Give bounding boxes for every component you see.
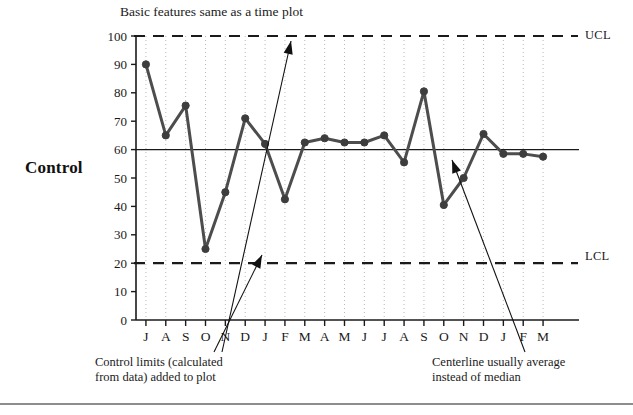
svg-text:A: A: [399, 329, 409, 344]
lcl-label: LCL: [585, 249, 610, 264]
callout-arrows: [214, 41, 525, 352]
svg-text:50: 50: [114, 171, 127, 186]
callout-control-limits-line1: Control limits (calculated: [95, 355, 223, 370]
svg-text:100: 100: [108, 29, 128, 44]
svg-text:M: M: [537, 329, 549, 344]
svg-text:J: J: [362, 329, 367, 344]
chart-canvas: 0102030405060708090100 JASONDJFMAMJJASON…: [0, 0, 633, 415]
control-chart-figure: Control Basic features same as a time pl…: [0, 0, 633, 415]
svg-text:0: 0: [121, 313, 128, 328]
svg-text:J: J: [143, 329, 148, 344]
chart-axes: [136, 36, 579, 320]
svg-text:A: A: [161, 329, 171, 344]
svg-text:80: 80: [114, 85, 127, 100]
svg-text:F: F: [281, 329, 289, 344]
svg-text:J: J: [262, 329, 267, 344]
x-axis-ticks: [146, 320, 543, 326]
svg-text:J: J: [382, 329, 387, 344]
svg-text:60: 60: [114, 142, 127, 157]
svg-text:O: O: [439, 329, 449, 344]
svg-text:N: N: [459, 329, 469, 344]
callout-centerline: Centerline usually average instead of me…: [432, 355, 565, 385]
svg-text:D: D: [240, 329, 250, 344]
svg-text:A: A: [320, 329, 330, 344]
svg-text:70: 70: [114, 114, 127, 129]
grid-lines: [146, 36, 543, 320]
svg-text:J: J: [501, 329, 506, 344]
y-axis-tick-labels: 0102030405060708090100: [108, 29, 128, 328]
svg-text:40: 40: [114, 199, 127, 214]
svg-text:M: M: [338, 329, 350, 344]
reference-lines: [134, 36, 579, 263]
svg-text:30: 30: [114, 227, 127, 242]
callout-control-limits: Control limits (calculated from data) ad…: [95, 355, 223, 385]
callout-centerline-line1: Centerline usually average: [432, 355, 565, 370]
svg-text:90: 90: [114, 57, 127, 72]
bottom-divider: [0, 403, 633, 405]
svg-text:M: M: [299, 329, 311, 344]
svg-text:O: O: [201, 329, 211, 344]
svg-text:D: D: [479, 329, 489, 344]
svg-text:20: 20: [114, 256, 127, 271]
svg-text:S: S: [182, 329, 190, 344]
callout-control-limits-line2: from data) added to plot: [95, 370, 223, 385]
callout-centerline-line2: instead of median: [432, 370, 565, 385]
svg-text:S: S: [420, 329, 428, 344]
ucl-label: UCL: [585, 28, 611, 43]
x-axis-tick-labels: JASONDJFMAMJJASONDJFM: [143, 329, 549, 344]
svg-text:10: 10: [114, 284, 127, 299]
